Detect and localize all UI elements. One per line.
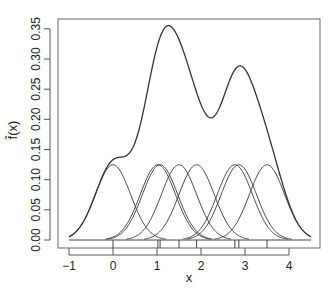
- x-tick-label: 2: [198, 259, 205, 273]
- x-tick-label: −1: [62, 259, 76, 273]
- x-axis: −101234: [62, 248, 293, 273]
- kernel-curve: [105, 165, 210, 239]
- plot-box: [58, 19, 320, 248]
- x-tick-label: 0: [110, 259, 117, 273]
- x-tick-label: 1: [154, 259, 161, 273]
- rug-marks: [69, 240, 311, 248]
- kernel-curve: [183, 165, 288, 239]
- kernel-curve: [69, 165, 166, 239]
- x-tick-label: 3: [242, 259, 249, 273]
- y-tick-label: 0.10: [29, 168, 43, 192]
- y-tick-label: 0.00: [29, 228, 43, 252]
- y-axis-title: f̂(x): [5, 121, 20, 141]
- y-tick-label: 0.30: [29, 47, 43, 71]
- kernel-curve: [187, 165, 292, 239]
- kde-chart: 0.000.050.100.150.200.250.300.35 −101234…: [0, 0, 329, 298]
- y-axis: 0.000.050.100.150.200.250.300.35: [29, 17, 50, 252]
- x-tick-label: 4: [286, 259, 293, 273]
- x-axis-title: x: [186, 270, 193, 285]
- y-tick-label: 0.05: [29, 198, 43, 222]
- y-tick-label: 0.25: [29, 77, 43, 101]
- y-tick-label: 0.15: [29, 138, 43, 162]
- kernel-curves: [69, 165, 311, 239]
- y-tick-label: 0.20: [29, 107, 43, 131]
- density-curve: [69, 26, 311, 237]
- y-tick-label: 0.35: [29, 17, 43, 41]
